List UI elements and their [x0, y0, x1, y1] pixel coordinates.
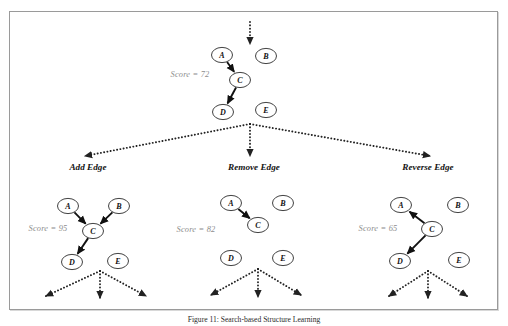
reverse-edge-child-arrow-1 — [389, 271, 428, 296]
reverse-edge-node-c: C — [422, 221, 443, 236]
add-edge-node-a: A — [58, 198, 79, 213]
node-label: D — [396, 257, 403, 266]
operator-label-reverse-edge: Reverse Edge — [401, 162, 453, 172]
root-edge-c-to-d — [228, 87, 236, 103]
node-label: E — [455, 256, 461, 265]
remove-edge-node-a: A — [221, 195, 242, 210]
node-label: D — [219, 108, 226, 117]
figure-container: ABCDEScore = 72Add EdgeABCDEScore = 95Re… — [0, 0, 508, 326]
branch-arrow-1 — [85, 124, 250, 156]
root-node-d: D — [213, 104, 234, 119]
node-label: B — [454, 201, 461, 210]
add-edge-child-arrow-3 — [100, 271, 146, 296]
root-node-e: E — [256, 102, 277, 117]
remove-edge-node-b: B — [273, 195, 294, 210]
reverse-edge-edge-c-to-d — [407, 235, 425, 253]
remove-edge-edge-a-to-c — [238, 209, 249, 218]
node-label: C — [255, 221, 261, 230]
node-label: D — [68, 258, 75, 267]
node-label: A — [218, 51, 225, 60]
reverse-edge-node-b: B — [448, 197, 469, 212]
node-label: B — [115, 202, 122, 211]
remove-edge-child-arrow-1 — [211, 269, 258, 295]
root-score-label: Score = 72 — [171, 70, 210, 79]
reverse-edge-node-e: E — [449, 252, 470, 267]
node-label: B — [262, 52, 269, 61]
root-node-a: A — [212, 47, 233, 62]
remove-edge-node-e: E — [273, 250, 294, 265]
operator-label-remove-edge: Remove Edge — [227, 162, 280, 172]
add-edge-child-arrow-1 — [46, 271, 100, 296]
branch-arrow-3 — [250, 124, 430, 156]
reverse-edge-node-d: D — [390, 253, 411, 268]
graph-layer: ABCDEScore = 72Add EdgeABCDEScore = 95Re… — [29, 22, 470, 298]
remove-edge-node-c: C — [248, 217, 269, 232]
operator-label-add-edge: Add Edge — [68, 162, 106, 172]
remove-edge-node-d: D — [221, 250, 242, 265]
figure-caption: Figure 11: Search-based Structure Learni… — [188, 316, 321, 324]
node-label: C — [429, 225, 435, 234]
remove-edge-child-arrow-3 — [258, 269, 301, 295]
add-edge-node-c: C — [83, 223, 104, 238]
add-edge-node-d: D — [62, 254, 83, 269]
node-label: A — [64, 202, 71, 211]
reverse-edge-edge-c-to-a — [410, 212, 425, 224]
add-edge-node-b: B — [109, 198, 130, 213]
root-node-b: B — [256, 48, 277, 63]
add-edge-edge-a-to-c — [74, 212, 85, 223]
add-edge-node-e: E — [108, 253, 129, 268]
node-label: E — [114, 257, 120, 266]
score-label-reverse-edge: Score = 65 — [359, 224, 398, 233]
node-label: E — [262, 106, 268, 115]
node-label: A — [397, 201, 404, 210]
add-edge-edge-c-to-d — [78, 238, 89, 254]
score-label-add-edge: Score = 95 — [29, 224, 68, 233]
node-label: D — [227, 254, 234, 263]
figure-canvas: ABCDEScore = 72Add EdgeABCDEScore = 95Re… — [0, 0, 508, 326]
caption-svg: Figure 11: Search-based Structure Learni… — [0, 316, 508, 326]
figure-caption-wrap: Figure 11: Search-based Structure Learni… — [0, 316, 508, 326]
reverse-edge-node-a: A — [391, 197, 412, 212]
node-label: A — [227, 199, 234, 208]
node-label: C — [90, 227, 96, 236]
node-label: E — [279, 254, 285, 263]
node-label: B — [279, 199, 286, 208]
reverse-edge-child-arrow-3 — [428, 271, 467, 296]
root-node-c: C — [230, 72, 251, 87]
root-edge-a-to-c — [227, 62, 234, 72]
score-label-remove-edge: Score = 82 — [177, 225, 216, 234]
node-label: C — [237, 76, 243, 85]
add-edge-edge-b-to-c — [101, 212, 113, 223]
